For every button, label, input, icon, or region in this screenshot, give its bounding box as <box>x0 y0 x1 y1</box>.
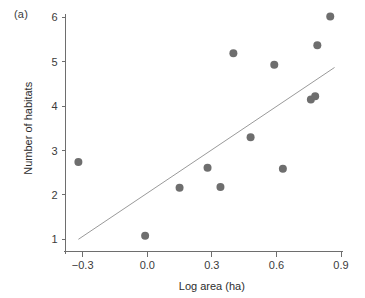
x-tick-label: 0.6 <box>269 259 284 271</box>
y-tick-label: 1 <box>51 233 57 245</box>
scatter-plot: 123456 −0.30.00.30.60.9 Log area (ha) Nu… <box>0 0 365 298</box>
data-point <box>216 183 224 191</box>
y-tick-label: 3 <box>51 145 57 157</box>
y-tick-label: 4 <box>51 100 57 112</box>
data-point <box>270 61 278 69</box>
figure-panel: (a) 123456 −0.30.00.30.60.9 Log area (ha… <box>0 0 365 298</box>
data-point <box>247 133 255 141</box>
y-tick-label: 2 <box>51 189 57 201</box>
data-points <box>74 12 334 239</box>
data-point <box>326 12 334 20</box>
x-axis-title: Log area (ha) <box>179 280 245 292</box>
x-tick-label: 0.0 <box>140 259 155 271</box>
x-tick-label: −0.3 <box>72 259 94 271</box>
y-tick-label: 6 <box>51 11 57 23</box>
data-point <box>176 184 184 192</box>
data-point <box>204 164 212 172</box>
data-point <box>311 92 319 100</box>
data-point <box>313 41 321 49</box>
y-axis-title: Number of habitats <box>22 81 34 174</box>
regression-line-segment <box>78 67 334 239</box>
x-axis: −0.30.00.30.60.9 <box>64 252 349 271</box>
y-axis: 123456 <box>51 11 65 253</box>
regression-line <box>78 67 334 239</box>
data-point <box>229 49 237 57</box>
y-tick-label: 5 <box>51 56 57 68</box>
data-point <box>74 158 82 166</box>
data-point <box>141 232 149 240</box>
x-tick-label: 0.9 <box>333 259 348 271</box>
x-tick-label: 0.3 <box>204 259 219 271</box>
data-point <box>279 165 287 173</box>
